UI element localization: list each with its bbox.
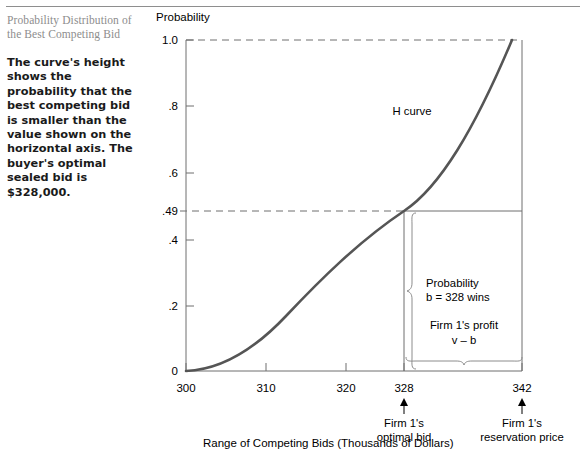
optimal-bid-arrow-head bbox=[400, 398, 408, 406]
probability-label-line1: Probability bbox=[426, 277, 479, 289]
chart-svg: 1.0 .8 .6 .49 .4 .2 0 300 310 320 328 34… bbox=[148, 0, 586, 463]
x-tick-label-300: 300 bbox=[176, 382, 195, 394]
probability-label-line2: b = 328 wins bbox=[426, 291, 490, 303]
reservation-price-arrow-head bbox=[518, 398, 526, 406]
reservation-price-callout-line1: Firm 1's bbox=[502, 417, 542, 429]
reservation-price-callout-line2: reservation price bbox=[480, 431, 564, 443]
y-tick-label-0: 0 bbox=[172, 365, 178, 377]
figure-root: Probability Distribution of the Best Com… bbox=[0, 0, 586, 463]
x-tick-label-328: 328 bbox=[394, 382, 413, 394]
y-tick-label-0.2: .2 bbox=[168, 300, 178, 312]
profit-brace bbox=[406, 357, 522, 365]
chart-area: 1.0 .8 .6 .49 .4 .2 0 300 310 320 328 34… bbox=[148, 0, 586, 463]
x-tick-label-310: 310 bbox=[256, 382, 275, 394]
probability-brace bbox=[407, 213, 416, 369]
y-tick-label-1.0: 1.0 bbox=[162, 34, 178, 46]
profit-label-line2: v – b bbox=[452, 334, 477, 346]
y-tick-label-0.6: .6 bbox=[168, 167, 178, 179]
profit-label-line1: Firm 1's profit bbox=[430, 319, 499, 331]
caption-column: Probability Distribution of the Best Com… bbox=[7, 14, 143, 200]
y-tick-label-0.4: .4 bbox=[168, 234, 178, 246]
y-tick-label-0.8: .8 bbox=[168, 100, 178, 112]
x-tick-label-320: 320 bbox=[336, 382, 355, 394]
caption-title: Probability Distribution of the Best Com… bbox=[7, 14, 143, 41]
y-tick-label-0.49: .49 bbox=[162, 205, 178, 217]
optimal-bid-callout-line2: optimal bid bbox=[377, 431, 432, 443]
caption-body: The curve's height shows the probability… bbox=[7, 56, 143, 200]
x-tick-label-342: 342 bbox=[512, 382, 531, 394]
h-curve-label: H curve bbox=[393, 105, 432, 117]
optimal-bid-callout-line1: Firm 1's bbox=[384, 417, 424, 429]
